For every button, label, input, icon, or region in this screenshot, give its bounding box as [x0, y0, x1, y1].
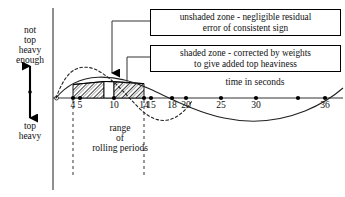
callout-unshaded-zone: unshaded zone - negligible residual erro… [150, 9, 341, 36]
x-tick-label: 36 [317, 99, 333, 110]
leader-line-unshaded [112, 21, 150, 73]
callout-shaded-zone: shaded zone - corrected by weights to gi… [150, 45, 341, 72]
leader-line-shaded [127, 57, 150, 84]
unshaded-zone [104, 82, 114, 99]
x-tick-label: 20 [178, 99, 194, 110]
x-tick-label: 10 [106, 99, 122, 110]
x-tick-label: 25 [213, 99, 229, 110]
callout-unshaded-line2: error of consistent sign [156, 23, 335, 34]
range-of-rolling-periods-label: range of rolling periods [75, 124, 165, 154]
y-axis-label-not-top-heavy-enough: not top heavy enough [6, 26, 54, 66]
callout-shaded-line2: to give added top heaviness [156, 59, 335, 70]
x-axis-label: time in seconds [205, 78, 305, 88]
x-tick-label: 15 [143, 99, 159, 110]
y-axis-label-top-heavy: top heavy [6, 122, 54, 142]
callout-shaded-line1: shaded zone - corrected by weights [156, 48, 335, 59]
x-tick-label: 30 [248, 99, 264, 110]
x-tick-label: 5 [72, 99, 88, 110]
callout-unshaded-line1: unshaded zone - negligible residual [156, 12, 335, 23]
top-heaviness-axis-arrow [28, 66, 32, 118]
